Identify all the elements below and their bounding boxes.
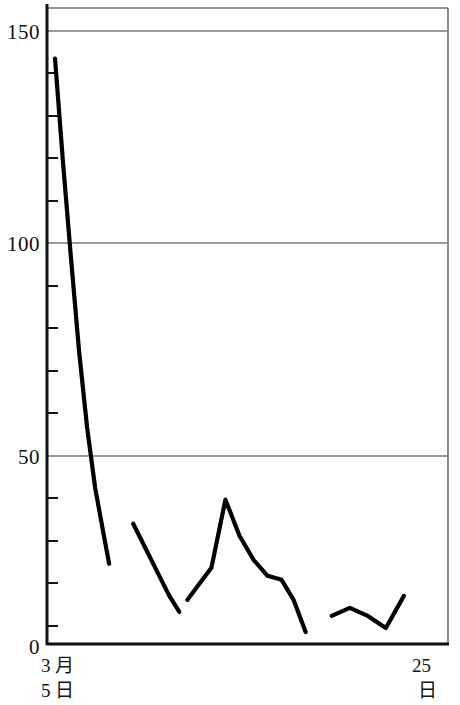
line-chart: 150 100 50 0 3 月 5 日 25 日: [0, 0, 460, 705]
x-caption-right-number: 25: [412, 655, 431, 676]
y-tick-label-100: 100: [7, 232, 40, 256]
chart-background: [0, 0, 460, 705]
x-caption-left-month: 3 月: [41, 655, 74, 676]
y-tick-label-0: 0: [29, 635, 40, 659]
x-caption-right-unit: 日: [418, 680, 437, 701]
x-caption-left-day: 5 日: [41, 680, 74, 701]
y-tick-label-150: 150: [7, 20, 40, 44]
chart-container: 150 100 50 0 3 月 5 日 25 日: [0, 0, 460, 705]
y-tick-label-50: 50: [18, 445, 40, 469]
